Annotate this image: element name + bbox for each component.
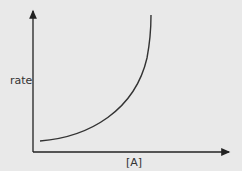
x-axis-label: [A] [126, 156, 142, 169]
chart-canvas [0, 0, 242, 171]
y-axis-label: rate [10, 74, 32, 87]
rate-curve [40, 15, 151, 141]
